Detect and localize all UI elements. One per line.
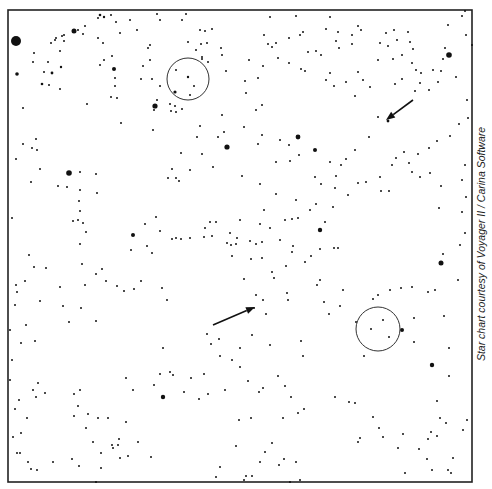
star <box>379 42 381 44</box>
star <box>313 148 317 152</box>
star <box>199 125 201 127</box>
star <box>107 417 109 419</box>
star <box>302 355 304 357</box>
star <box>251 334 253 336</box>
star <box>394 83 396 85</box>
star <box>302 31 304 33</box>
star <box>307 51 309 53</box>
star <box>328 313 330 315</box>
star <box>73 415 75 417</box>
star <box>211 235 213 237</box>
star <box>372 298 374 300</box>
star <box>66 170 72 176</box>
star <box>180 152 182 154</box>
star <box>103 16 105 18</box>
star <box>275 42 277 44</box>
star <box>9 329 11 331</box>
star <box>447 469 449 471</box>
star <box>159 373 161 375</box>
star <box>200 43 202 45</box>
star <box>401 78 403 80</box>
star <box>9 379 11 381</box>
highlight-circle <box>356 307 400 351</box>
star <box>269 344 271 346</box>
star <box>95 273 97 275</box>
star <box>382 319 384 321</box>
star <box>335 40 337 42</box>
star <box>368 136 370 138</box>
star <box>189 94 191 96</box>
star <box>11 36 21 46</box>
star <box>241 175 243 177</box>
star <box>299 479 301 481</box>
star <box>80 307 82 309</box>
star <box>95 173 97 175</box>
star <box>300 340 302 342</box>
star <box>59 286 61 288</box>
star <box>464 10 466 12</box>
star <box>81 263 83 265</box>
star <box>193 85 195 87</box>
star <box>290 396 292 398</box>
star <box>382 436 384 438</box>
star <box>461 179 463 181</box>
star <box>455 76 457 78</box>
star <box>462 429 464 431</box>
star <box>338 47 340 49</box>
star <box>97 417 99 419</box>
star <box>286 292 288 294</box>
star <box>257 143 259 145</box>
star <box>140 78 142 80</box>
star <box>377 294 379 296</box>
star <box>345 158 347 160</box>
star <box>79 189 81 191</box>
star <box>22 143 24 145</box>
star <box>295 461 297 463</box>
star <box>465 196 467 198</box>
star <box>39 168 41 170</box>
star <box>284 385 286 387</box>
star <box>41 83 44 86</box>
star <box>189 169 191 171</box>
star-chart <box>0 0 492 489</box>
star <box>269 16 271 18</box>
star <box>419 176 421 178</box>
star <box>450 472 452 474</box>
star <box>319 279 321 281</box>
star <box>363 355 365 357</box>
star <box>190 377 192 379</box>
star <box>359 437 361 439</box>
star <box>103 59 105 61</box>
star <box>298 154 300 156</box>
star <box>247 380 249 382</box>
star <box>429 172 431 174</box>
star <box>112 67 116 71</box>
star <box>448 375 450 377</box>
star <box>323 301 325 303</box>
star <box>118 438 120 440</box>
star <box>446 52 452 58</box>
star <box>329 161 331 163</box>
star <box>360 29 362 31</box>
star <box>357 182 359 184</box>
star-field <box>9 10 473 483</box>
star <box>291 218 293 220</box>
star <box>345 81 347 83</box>
star <box>77 405 79 407</box>
star <box>84 284 86 286</box>
star <box>466 99 468 101</box>
star <box>99 64 101 66</box>
star <box>47 61 49 63</box>
star <box>412 48 414 50</box>
star <box>389 289 391 291</box>
star <box>156 99 158 101</box>
star <box>99 14 102 17</box>
star <box>297 217 299 219</box>
star <box>166 299 168 301</box>
star <box>24 280 26 282</box>
star <box>466 419 468 421</box>
star <box>225 70 227 72</box>
star <box>151 78 153 80</box>
star <box>115 21 117 23</box>
star <box>79 389 81 391</box>
